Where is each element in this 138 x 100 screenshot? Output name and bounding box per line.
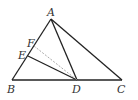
- geometry-diagram: A B C D E F: [0, 0, 138, 100]
- segment-fd-dashed: [34, 46, 77, 80]
- label-e: E: [17, 49, 26, 62]
- segment-ad: [51, 19, 77, 80]
- label-d: D: [71, 83, 81, 96]
- label-f: F: [26, 37, 35, 50]
- label-b: B: [6, 83, 15, 96]
- label-a: A: [46, 6, 55, 19]
- label-c: C: [117, 83, 126, 96]
- segment-ed: [28, 56, 77, 80]
- segment-ac: [51, 19, 122, 80]
